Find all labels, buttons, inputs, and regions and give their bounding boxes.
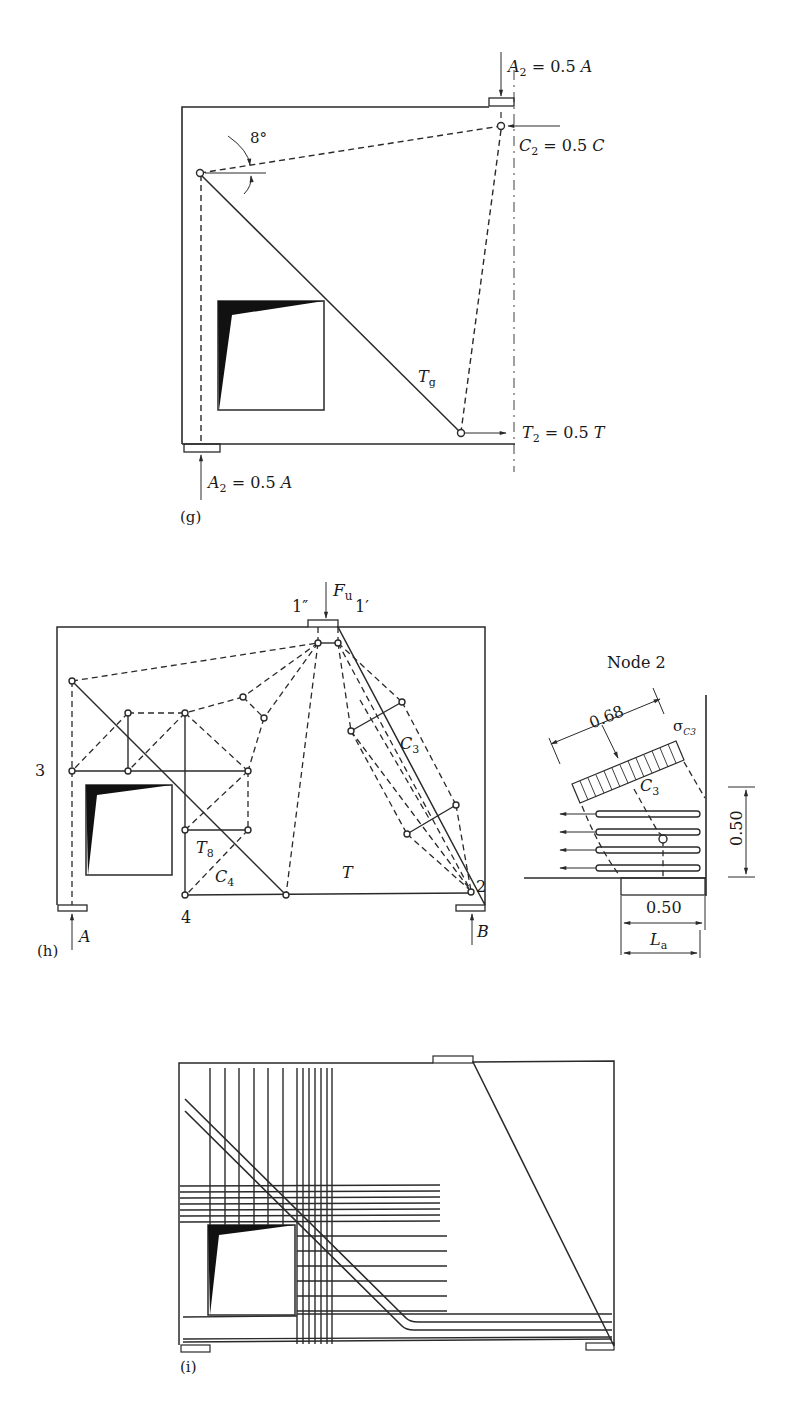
node-2-detail: Node 2 [524,653,755,958]
top-bearing-plate [433,1056,473,1063]
label-c4: C4 [215,867,234,889]
label-fu: Fu [332,580,353,603]
figure-i: (i) [179,1056,614,1376]
support-right [586,1343,614,1350]
opening-fillet [218,301,324,410]
label-reaction-b: B [476,922,489,941]
ties [72,643,471,895]
top-bearing-plate [308,620,338,627]
dimension-label-bearing: 0.50 [646,898,682,917]
opening-fillet [208,1225,295,1315]
node [458,430,465,437]
panel-label-g: (g) [180,508,201,526]
figure-h: Fu 1″ 1′ 3 4 2 C3 C4 T8 T A B (h) [35,580,489,960]
bearing-plate [621,878,705,895]
strut-top [200,126,501,173]
label-node-1pp: 1″ [292,597,308,616]
support-b [456,905,485,911]
angle-arc-bottom [244,176,251,194]
label-a2-top: A2 = 0.5 A [506,57,592,79]
node-centroid [659,835,667,843]
angle-arc-top [228,136,250,165]
dimension-label-0-68: 0.68 [586,701,626,732]
horizontal-bars [180,1185,612,1342]
label-tie-t: T [342,863,354,882]
panel-label-h: (h) [37,942,58,960]
node-detail-title: Node 2 [607,653,666,672]
top-bearing-plate [489,98,514,106]
bottom-bearing-plate [184,444,220,452]
label-c2: C2 = 0.5 C [519,136,605,158]
support-a [58,905,87,911]
support-left [181,1345,210,1352]
strut-boundary-right [684,762,705,798]
node [498,123,505,130]
label-node-1p: 1′ [355,597,369,616]
dimension-label-height: 0.50 [727,810,746,846]
node [197,170,204,177]
label-node-3: 3 [35,761,45,780]
opening [218,301,324,410]
label-c3: C3 [640,776,659,798]
label-t8: T8 [196,838,214,860]
opening [208,1225,295,1315]
label-t2: T2 = 0.5 T [522,423,606,445]
label-anchorage-length: La [649,930,668,952]
vertical-stirrups [210,1068,332,1344]
strut-and-tie-figure: 8° A2 = 0.5 A C2 = 0.5 C Tg T2 = 0.5 T A… [0,0,787,1405]
opening-fillet [86,785,172,875]
label-reaction-a: A [77,927,91,946]
stress-block [572,741,684,803]
label-sigma-c3: σC3 [673,717,696,737]
label-a2-bottom: A2 = 0.5 A [206,473,292,495]
wall-outline [182,107,489,444]
beam-outline [57,627,485,905]
dimension-height: 0.50 [727,787,755,877]
strut-right [461,130,501,432]
angle-label: 8° [250,129,267,147]
opening [86,785,172,875]
reinforcing-bars [560,811,700,871]
label-node-2: 2 [476,877,486,896]
label-node-4: 4 [181,908,191,927]
dimension-bearing: 0.50 La [621,896,705,958]
label-tg: Tg [418,367,436,389]
label-c3: C3 [400,734,419,756]
figure-g: 8° A2 = 0.5 A C2 = 0.5 C Tg T2 = 0.5 T A… [180,52,606,526]
panel-label-i: (i) [180,1358,197,1376]
